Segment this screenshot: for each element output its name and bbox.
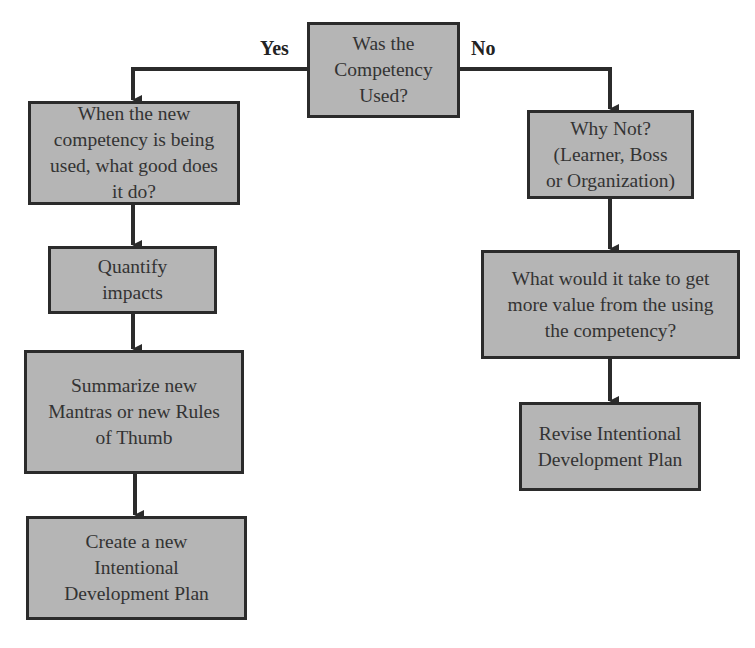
box-text: What would it take to get more value fro… — [508, 266, 714, 344]
decision-text: Was the Competency Used? — [334, 31, 433, 109]
no-label: No — [471, 37, 495, 60]
box-create-new-plan: Create a new Intentional Development Pla… — [26, 516, 247, 620]
edge-yes — [133, 69, 307, 100]
edge-no — [459, 69, 610, 109]
box-text: Why Not? (Learner, Boss or Organization) — [546, 116, 675, 194]
box-revise-plan: Revise Intentional Development Plan — [519, 402, 701, 491]
box-text: Create a new Intentional Development Pla… — [64, 529, 209, 607]
box-text: Summarize new Mantras or new Rules of Th… — [48, 373, 220, 451]
box-text: When the new competency is being used, w… — [50, 101, 218, 205]
decision-was-competency-used: Was the Competency Used? — [307, 22, 460, 118]
box-summarize-mantras: Summarize new Mantras or new Rules of Th… — [24, 350, 244, 474]
box-what-good-does-it-do: When the new competency is being used, w… — [28, 101, 240, 205]
box-why-not: Why Not? (Learner, Boss or Organization) — [527, 110, 694, 199]
box-quantify-impacts: Quantify impacts — [48, 246, 217, 314]
box-text: Revise Intentional Development Plan — [538, 421, 683, 473]
box-text: Quantify impacts — [98, 254, 167, 306]
yes-label: Yes — [260, 37, 289, 60]
box-more-value: What would it take to get more value fro… — [481, 250, 740, 359]
